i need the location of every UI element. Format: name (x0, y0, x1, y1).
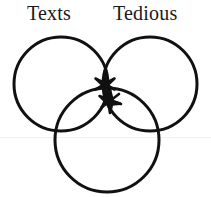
venn-circles-svg (0, 0, 211, 197)
circle-label-texts: Texts (27, 3, 71, 23)
venn-diagram-figure: Texts Tedious (0, 0, 211, 197)
right-circle (103, 37, 197, 131)
circle-label-tedious: Tedious (113, 3, 177, 23)
